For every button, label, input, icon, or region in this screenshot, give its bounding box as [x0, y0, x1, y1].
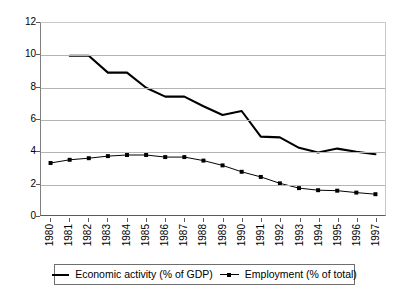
gridline — [41, 120, 385, 121]
legend-label-employment: Employment (% of total) — [245, 269, 357, 280]
series-marker-1 — [125, 153, 129, 157]
series-marker-1 — [259, 175, 263, 179]
gridline — [41, 88, 385, 89]
x-axis-tick-mark — [319, 218, 320, 222]
x-axis-tick-mark — [203, 218, 204, 222]
plot-area — [40, 22, 386, 216]
x-axis-tick-mark — [88, 218, 89, 222]
y-axis-tick-mark — [36, 216, 40, 217]
series-marker-1 — [354, 191, 358, 195]
series-marker-1 — [316, 188, 320, 192]
x-axis-tick-mark — [300, 218, 301, 222]
x-axis-tick-label: 1990 — [237, 224, 247, 246]
x-axis-tick-mark — [261, 218, 262, 222]
x-axis-tick-mark — [184, 218, 185, 222]
x-axis-tick-label: 1982 — [83, 224, 93, 246]
x-axis-tick-label: 1984 — [122, 224, 132, 246]
line-chart: 121086420 198019811982198319841985198619… — [0, 0, 405, 291]
x-axis-tick-mark — [146, 218, 147, 222]
y-axis-tick-label: 12 — [2, 17, 36, 27]
line-marker-swatch-icon — [220, 271, 239, 278]
x-axis-tick-mark — [50, 218, 51, 222]
x-axis-tick-label: 1994 — [314, 224, 324, 246]
x-axis-tick-mark — [357, 218, 358, 222]
y-axis-tick-label: 10 — [2, 49, 36, 59]
line-swatch-icon — [52, 274, 69, 276]
x-axis-tick-label: 1988 — [198, 224, 208, 246]
series-marker-1 — [182, 155, 186, 159]
series-marker-1 — [221, 163, 225, 167]
x-axis: 1980198119821983198419851986198719881989… — [40, 218, 386, 260]
x-axis-tick-label: 1993 — [295, 224, 305, 246]
y-axis-tick-label: 8 — [2, 82, 36, 92]
x-axis-tick-mark — [223, 218, 224, 222]
y-axis: 121086420 — [0, 22, 36, 216]
series-marker-1 — [373, 192, 377, 196]
x-axis-tick-label: 1985 — [141, 224, 151, 246]
x-axis-tick-label: 1989 — [218, 224, 228, 246]
series-marker-1 — [163, 155, 167, 159]
chart-legend: Economic activity (% of GDP) Employment … — [54, 264, 355, 285]
legend-label-economic-activity: Economic activity (% of GDP) — [75, 269, 213, 280]
x-axis-tick-label: 1995 — [333, 224, 343, 246]
gridline — [41, 152, 385, 153]
x-axis-tick-label: 1981 — [64, 224, 74, 246]
series-marker-1 — [49, 161, 53, 165]
y-axis-tick-label: 2 — [2, 179, 36, 189]
x-axis-tick-label: 1992 — [275, 224, 285, 246]
x-axis-tick-label: 1987 — [179, 224, 189, 246]
y-axis-tick-label: 6 — [2, 114, 36, 124]
x-axis-tick-label: 1986 — [160, 224, 170, 246]
x-axis-tick-mark — [107, 218, 108, 222]
legend-item-economic-activity[interactable]: Economic activity (% of GDP) — [52, 269, 213, 280]
series-marker-1 — [240, 170, 244, 174]
legend-item-employment[interactable]: Employment (% of total) — [220, 269, 357, 280]
x-axis-tick-label: 1980 — [45, 224, 55, 246]
series-marker-1 — [335, 189, 339, 193]
x-axis-tick-mark — [165, 218, 166, 222]
x-axis-tick-mark — [127, 218, 128, 222]
x-axis-tick-label: 1996 — [352, 224, 362, 246]
x-axis-tick-mark — [280, 218, 281, 222]
x-axis-tick-mark — [69, 218, 70, 222]
series-marker-1 — [68, 158, 72, 162]
x-axis-tick-label: 1991 — [256, 224, 266, 246]
series-marker-1 — [201, 159, 205, 163]
x-axis-tick-mark — [338, 218, 339, 222]
series-line-0 — [70, 56, 376, 154]
series-line-1 — [51, 155, 376, 194]
series-marker-1 — [106, 154, 110, 158]
x-axis-tick-mark — [376, 218, 377, 222]
x-axis-tick-label: 1997 — [371, 224, 381, 246]
series-layer — [41, 23, 385, 215]
x-axis-tick-label: 1983 — [102, 224, 112, 246]
gridline — [41, 185, 385, 186]
y-axis-tick-label: 0 — [2, 211, 36, 221]
series-marker-1 — [297, 186, 301, 190]
y-axis-tick-label: 4 — [2, 146, 36, 156]
x-axis-tick-mark — [242, 218, 243, 222]
series-marker-1 — [144, 153, 148, 157]
gridline — [41, 55, 385, 56]
series-marker-1 — [87, 156, 91, 160]
